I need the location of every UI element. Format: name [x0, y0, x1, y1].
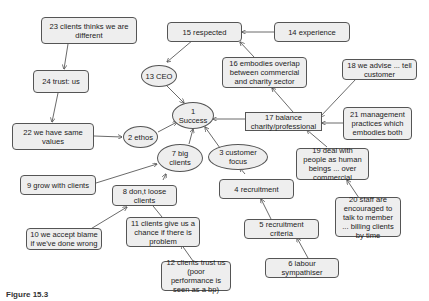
node-21-management-practices: 21 management practices which embodies b…: [343, 107, 412, 140]
node-3-customer-focus: 3 customer focus: [208, 144, 268, 170]
node-5-recruitment-criteria: 5 recruitment criteria: [244, 219, 319, 239]
node-12-clients-trust-us: 12 clients trust us (poor performance is…: [161, 261, 231, 291]
cause-map-diagram: 23 clients thinks we are different 24 tr…: [0, 0, 429, 301]
node-22-same-values: 22 we have same values: [12, 123, 94, 150]
node-23-clients-think-different: 23 clients thinks we are different: [41, 17, 137, 44]
node-8-dont-loose-clients: 8 don,t loose clients: [112, 185, 177, 206]
node-15-respected: 15 respected: [167, 22, 242, 42]
node-24-trust-us: 24 trust: us: [33, 70, 89, 93]
node-16-embodies-overlap: 16 embodies overlap between commercial a…: [222, 57, 307, 88]
node-20-staff-encouraged: 20 staff are encouraged to talk to membe…: [335, 197, 401, 237]
node-2-ethos: 2 ethos: [123, 126, 158, 148]
node-17-balance-charity-professional: 17 balance charity/professional: [245, 112, 322, 131]
node-14-experience: 14 experience: [274, 22, 350, 42]
node-13-ceo: 13 CEO: [141, 65, 177, 87]
node-6-labour-sympathiser: 6 labour sympathiser: [265, 258, 339, 278]
node-18-we-advise: 18 we advise ... tell customer: [342, 59, 417, 80]
figure-caption: Figure 15.3: [6, 290, 48, 299]
node-19-deal-with-people: 19 deal with people as human beings ... …: [296, 148, 369, 180]
node-4-recruitment: 4 recruitment: [219, 179, 294, 199]
node-7-big-clients: 7 big clients: [157, 144, 203, 172]
node-1-success: 1 Success: [172, 102, 214, 129]
node-11-clients-give-chance: 11 clients give us a chance if there is …: [126, 217, 200, 247]
node-10-accept-blame: 10 we accept blame if we've done wrong: [26, 228, 102, 250]
node-9-grow-with-clients: 9 grow with clients: [20, 175, 96, 195]
